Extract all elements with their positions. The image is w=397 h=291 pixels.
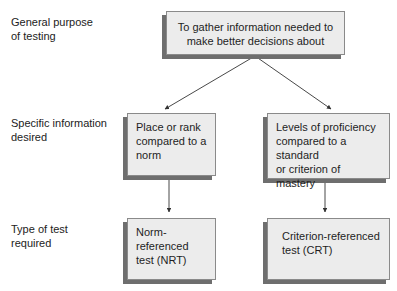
node-norm-referenced-test-text: Norm-referenced test (NRT) (136, 225, 209, 267)
edge-purpose-to-criterion-info (255, 56, 331, 109)
node-criterion-referenced-test: Criterion-referenced test (CRT) (267, 218, 390, 280)
row-label-type-of-test: Type of test required (11, 222, 68, 250)
row-label-specific-information: Specific information desired (11, 116, 107, 144)
node-norm-info-text: Place or rank compared to a norm (136, 120, 207, 162)
node-general-purpose: To gather information needed to make bet… (166, 11, 345, 55)
edge-purpose-to-norm-info (165, 56, 255, 109)
node-criterion-info-text: Levels of proficiency compared to a stan… (276, 120, 381, 190)
node-criterion-info: Levels of proficiency compared to a stan… (267, 113, 390, 179)
row-label-general-purpose: General purpose of testing (11, 15, 93, 43)
node-criterion-referenced-test-text: Criterion-referenced test (CRT) (282, 229, 383, 257)
node-norm-referenced-test: Norm-referenced test (NRT) (127, 218, 216, 280)
node-general-purpose-text: To gather information needed to make bet… (173, 20, 338, 48)
node-norm-info: Place or rank compared to a norm (127, 113, 216, 176)
